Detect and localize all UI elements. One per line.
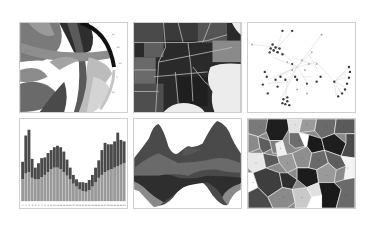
bar-segment-lower bbox=[53, 168, 56, 202]
bar-segment-upper bbox=[72, 175, 75, 184]
bar-segment-lower bbox=[21, 179, 24, 201]
bar-segment-lower bbox=[59, 169, 62, 201]
bar-segment-lower bbox=[94, 182, 97, 201]
bar-segment-upper bbox=[59, 147, 62, 169]
bar-segment-upper bbox=[53, 147, 56, 167]
bar-segment-lower bbox=[31, 178, 34, 201]
bar-segment-lower bbox=[113, 168, 116, 202]
bar-segment-upper bbox=[40, 158, 43, 177]
bar-segment-upper bbox=[24, 136, 27, 174]
bar-segment-upper bbox=[116, 133, 119, 167]
bar-segment-lower bbox=[107, 171, 110, 202]
bar-segment-upper bbox=[100, 150, 103, 175]
bar-segment-upper bbox=[85, 183, 88, 192]
chord-diagram: 20 40 60 0 20 bbox=[20, 23, 127, 112]
bar-segment-upper bbox=[107, 144, 110, 170]
bar-segment-lower bbox=[37, 179, 40, 201]
bar-segment-lower bbox=[47, 172, 50, 201]
bar-segment-lower bbox=[110, 169, 113, 201]
bar-segment-upper bbox=[62, 152, 65, 172]
bar-segment-lower bbox=[66, 176, 69, 202]
bar-segment-lower bbox=[72, 184, 75, 201]
bar-segment-upper bbox=[75, 179, 78, 186]
bar-segment-upper bbox=[88, 180, 91, 190]
bar-segment-lower bbox=[69, 179, 72, 201]
bar-segment-upper bbox=[21, 162, 24, 179]
bar-segment-lower bbox=[75, 187, 78, 202]
bar-segment-upper bbox=[104, 143, 107, 172]
bar-segment-lower bbox=[43, 175, 46, 201]
bar-segment-upper bbox=[94, 168, 97, 183]
bar-segment-upper bbox=[91, 175, 94, 187]
bar-segment-upper bbox=[50, 150, 53, 169]
bar-segment-lower bbox=[85, 192, 88, 201]
bar-segment-lower bbox=[100, 175, 103, 201]
chord-diagram-panel: 20 40 60 0 20 bbox=[19, 22, 128, 113]
bar-segment-lower bbox=[50, 169, 53, 201]
bar-segment-lower bbox=[28, 172, 31, 201]
bar-segment-upper bbox=[66, 160, 69, 176]
bar-segment-upper bbox=[31, 159, 34, 178]
bar-segment-upper bbox=[69, 168, 72, 180]
bar-segment-upper bbox=[28, 130, 31, 172]
bar-segment-upper bbox=[37, 163, 40, 179]
bar-segment-upper bbox=[123, 141, 126, 163]
bar-segment-lower bbox=[62, 172, 65, 201]
bar-segment-upper bbox=[119, 140, 122, 165]
bar-segment-upper bbox=[110, 144, 113, 169]
bar-segment-lower bbox=[40, 177, 43, 201]
bar-segment-lower bbox=[97, 178, 100, 201]
bar-segment-lower bbox=[116, 166, 119, 201]
bar-segment-lower bbox=[24, 173, 27, 201]
bar-segment-lower bbox=[123, 163, 126, 201]
bar-segment-upper bbox=[97, 160, 100, 177]
bar-segment-upper bbox=[81, 182, 84, 191]
voronoi-diagram-panel bbox=[247, 118, 356, 209]
bar-segment-lower bbox=[91, 187, 94, 202]
choropleth-map-panel bbox=[133, 22, 242, 113]
stacked-bar-chart-panel: 1234567891011121314151617181920212223242… bbox=[19, 118, 128, 209]
bar-segment-upper bbox=[34, 168, 37, 180]
streamgraph-panel bbox=[133, 118, 242, 209]
voronoi-diagram bbox=[248, 119, 355, 208]
bar-segment-upper bbox=[78, 182, 81, 189]
bar-segment-lower bbox=[119, 165, 122, 201]
bar-segment-lower bbox=[81, 191, 84, 201]
choropleth-map bbox=[134, 23, 241, 112]
bar-segment-lower bbox=[34, 179, 37, 201]
streamgraph bbox=[134, 119, 241, 208]
bar-segment-lower bbox=[88, 190, 91, 201]
stacked-bar-chart: 1234567891011121314151617181920212223242… bbox=[20, 119, 127, 208]
network-graph bbox=[248, 23, 355, 112]
network-graph-panel bbox=[247, 22, 356, 113]
bar-segment-upper bbox=[43, 157, 46, 174]
bar-segment-lower bbox=[78, 189, 81, 201]
bar-segment-upper bbox=[47, 153, 50, 172]
bar-segment-lower bbox=[56, 168, 59, 202]
bar-segment-upper bbox=[56, 146, 59, 168]
bar-segment-lower bbox=[104, 172, 107, 201]
bar-segment-upper bbox=[113, 141, 116, 167]
